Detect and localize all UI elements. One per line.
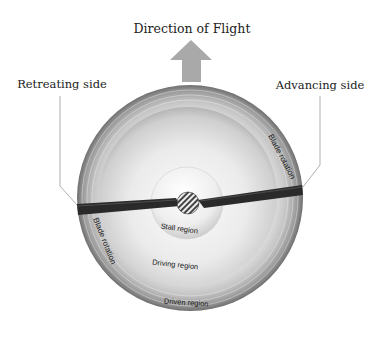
retreating-side-label: Retreating side	[17, 77, 107, 91]
hatched-hub-icon	[177, 192, 199, 214]
rotor-disc-diagram: Direction of Flight Retreating side Adva…	[0, 0, 380, 338]
advancing-side-label: Advancing side	[275, 78, 365, 92]
advancing-side-leader-line	[303, 96, 320, 187]
direction-of-flight-label: Direction of Flight	[134, 21, 251, 36]
retreating-side-leader-line	[60, 96, 77, 205]
arrow-up-icon	[170, 40, 212, 82]
